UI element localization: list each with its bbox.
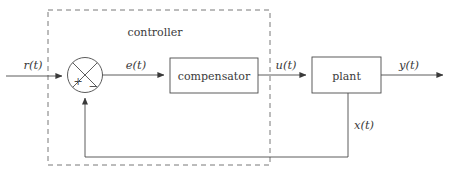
output-signal-label: y(t) <box>399 60 419 72</box>
block-diagram-canvas: r(t) e(t) u(t) y(t) x(t) controller comp… <box>0 0 451 180</box>
feedback-signal-line <box>85 93 348 157</box>
summing-junction-minus-sign: − <box>88 81 97 92</box>
controller-group-label: controller <box>128 27 183 38</box>
plant-block-label: plant <box>332 71 361 82</box>
compensator-block-label: compensator <box>178 71 250 82</box>
reference-signal-label: r(t) <box>23 60 42 72</box>
control-signal-label: u(t) <box>275 60 296 72</box>
diagram-svg <box>0 0 451 180</box>
summing-junction-plus-sign: + <box>73 76 82 87</box>
feedback-signal-label: x(t) <box>354 120 374 132</box>
error-signal-label: e(t) <box>126 60 146 72</box>
